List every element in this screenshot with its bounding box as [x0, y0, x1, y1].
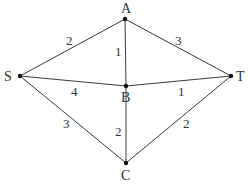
edge-weight-a-t: 3 — [175, 33, 182, 48]
node-t-label: T — [236, 69, 245, 84]
edge-weight-b-c: 2 — [115, 124, 122, 139]
edge-weight-a-b: 1 — [115, 44, 122, 59]
edge-weight-s-b: 4 — [71, 84, 78, 99]
edge-weight-b-t: 1 — [178, 84, 185, 99]
graph-diagram: 21341322 ABSTC — [0, 0, 248, 184]
node-t-dot — [229, 74, 233, 78]
edge-a-b — [125, 19, 126, 86]
node-a-label: A — [121, 1, 132, 16]
edge-weight-s-c: 3 — [63, 116, 70, 131]
edge-weight-s-a: 2 — [66, 33, 73, 48]
node-a-dot — [123, 17, 127, 21]
node-b-dot — [124, 84, 128, 88]
node-s-label: S — [4, 69, 12, 84]
node-s-dot — [18, 74, 22, 78]
node-b-label: B — [121, 90, 130, 105]
edge-weight-t-c: 2 — [183, 116, 190, 131]
node-c-dot — [124, 161, 128, 165]
edge-s-a — [20, 19, 125, 76]
node-c-label: C — [121, 168, 130, 183]
